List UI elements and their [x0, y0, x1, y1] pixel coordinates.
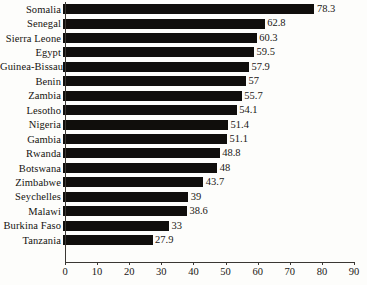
category-label: Sierra Leone — [0, 33, 63, 44]
bar-row: Benin57 — [0, 74, 367, 88]
bar — [63, 148, 220, 158]
bar-track: 51.4 — [63, 118, 367, 132]
bar-value-label: 57 — [246, 75, 259, 87]
bar-track: 60.3 — [63, 31, 367, 45]
x-tick-mark — [161, 262, 162, 265]
bar — [63, 62, 249, 72]
bar-row: Guinea-Bissau57.9 — [0, 60, 367, 74]
category-label: Gambia — [0, 134, 63, 145]
bar-track: 54.1 — [63, 103, 367, 117]
bar-track: 27.9 — [63, 233, 367, 247]
bar — [63, 177, 203, 187]
bar-value-label: 78.3 — [314, 3, 335, 15]
bar — [63, 163, 217, 173]
bar-rows: Somalia78.3Senegal62.8Sierra Leone60.3Eg… — [0, 2, 367, 247]
bar-row: Zimbabwe43.7 — [0, 175, 367, 189]
x-tick-mark — [193, 262, 194, 265]
bar-track: 55.7 — [63, 89, 367, 103]
bar-value-label: 38.6 — [187, 205, 208, 217]
x-tick-label: 60 — [252, 266, 263, 278]
bar-row: Somalia78.3 — [0, 2, 367, 16]
bar-row: Senegal62.8 — [0, 16, 367, 30]
category-label: Seychelles — [0, 191, 63, 202]
bar-track: 59.5 — [63, 45, 367, 59]
bar-value-label: 51.1 — [227, 133, 248, 145]
x-tick-label: 70 — [285, 266, 296, 278]
bar — [63, 76, 246, 86]
x-tick-label: 90 — [349, 266, 360, 278]
bar — [63, 206, 187, 216]
category-label: Zimbabwe — [0, 177, 63, 188]
category-label: Malawi — [0, 206, 63, 217]
bar-row: Egypt59.5 — [0, 45, 367, 59]
bar — [63, 120, 228, 130]
category-label: Benin — [0, 76, 63, 87]
x-tick-label: 40 — [188, 266, 199, 278]
x-tick-label: 30 — [156, 266, 167, 278]
bar-value-label: 60.3 — [257, 32, 278, 44]
x-tick-mark — [354, 262, 355, 265]
bar-value-label: 48.8 — [220, 147, 241, 159]
bar — [63, 192, 188, 202]
bar-value-label: 43.7 — [203, 176, 224, 188]
category-label: Rwanda — [0, 148, 63, 159]
bar — [63, 221, 169, 231]
bar-row: Rwanda48.8 — [0, 146, 367, 160]
plot-area: Somalia78.3Senegal62.8Sierra Leone60.3Eg… — [0, 0, 367, 285]
bar-track: 62.8 — [63, 16, 367, 30]
bar-row: Sierra Leone60.3 — [0, 31, 367, 45]
category-label: Zambia — [0, 90, 63, 101]
bar-track: 38.6 — [63, 204, 367, 218]
bar-value-label: 33 — [169, 220, 182, 232]
bar-row: Zambia55.7 — [0, 89, 367, 103]
bar — [63, 235, 153, 245]
bar-value-label: 62.8 — [265, 17, 286, 29]
bar-row: Botswana48 — [0, 161, 367, 175]
x-tick-mark — [65, 262, 66, 265]
bar — [63, 33, 257, 43]
bar-track: 51.1 — [63, 132, 367, 146]
x-tick-mark — [97, 262, 98, 265]
y-axis-line — [65, 2, 66, 262]
bar — [63, 105, 237, 115]
category-label: Egypt — [0, 47, 63, 58]
category-label: Guinea-Bissau — [0, 61, 63, 72]
bar-track: 33 — [63, 219, 367, 233]
bar-row: Lesotho54.1 — [0, 103, 367, 117]
bar-value-label: 27.9 — [153, 234, 174, 246]
x-tick-mark — [129, 262, 130, 265]
x-axis-line — [65, 262, 354, 263]
bar-chart: Somalia78.3Senegal62.8Sierra Leone60.3Eg… — [0, 0, 367, 285]
bar-row: Tanzania27.9 — [0, 233, 367, 247]
category-label: Tanzania — [0, 235, 63, 246]
bar-value-label: 59.5 — [254, 46, 275, 58]
x-tick-label: 10 — [92, 266, 103, 278]
bar-track: 48 — [63, 161, 367, 175]
bar — [63, 4, 314, 14]
x-tick-label: 0 — [62, 266, 67, 278]
x-tick-label: 80 — [317, 266, 328, 278]
bar-row: Burkina Faso33 — [0, 219, 367, 233]
bar-track: 43.7 — [63, 175, 367, 189]
x-tick-mark — [322, 262, 323, 265]
bar-track: 48.8 — [63, 146, 367, 160]
category-label: Burkina Faso — [0, 220, 63, 231]
bar — [63, 19, 265, 29]
category-label: Lesotho — [0, 105, 63, 116]
bar-value-label: 39 — [188, 191, 201, 203]
bar — [63, 47, 254, 57]
bar-value-label: 55.7 — [242, 90, 263, 102]
bar — [63, 91, 242, 101]
x-tick-mark — [258, 262, 259, 265]
bar-value-label: 51.4 — [228, 119, 249, 131]
bar-track: 57 — [63, 74, 367, 88]
bar-value-label: 57.9 — [249, 61, 270, 73]
bar-track: 39 — [63, 190, 367, 204]
bar — [63, 134, 227, 144]
bar-row: Seychelles39 — [0, 190, 367, 204]
bar-track: 78.3 — [63, 2, 367, 16]
bar-track: 57.9 — [63, 60, 367, 74]
x-tick-label: 20 — [124, 266, 135, 278]
bar-row: Gambia51.1 — [0, 132, 367, 146]
x-tick-mark — [226, 262, 227, 265]
